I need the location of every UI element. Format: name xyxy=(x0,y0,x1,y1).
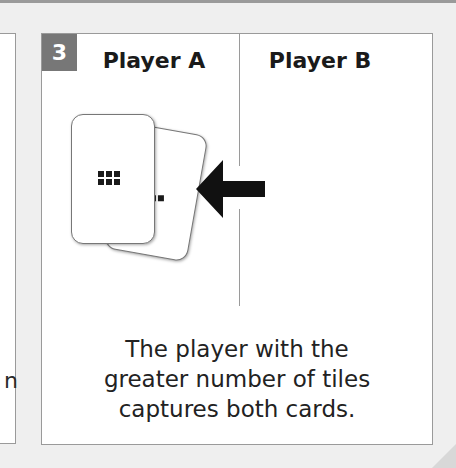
tiles-icon xyxy=(98,171,120,185)
caption-line: greater number of tiles xyxy=(42,364,432,394)
step-panel: 3 Player A Player B The player with the … xyxy=(41,33,433,445)
column-divider xyxy=(239,209,240,306)
page-fold xyxy=(432,444,456,468)
player-a-heading: Player A xyxy=(64,48,244,73)
column-divider xyxy=(239,34,240,166)
caption-line: The player with the xyxy=(42,334,432,364)
arrow-left-icon xyxy=(196,160,268,218)
previous-step-text-fragment: n xyxy=(4,368,18,393)
card-icon xyxy=(71,114,155,244)
rule-caption: The player with the greater number of ti… xyxy=(42,334,432,424)
caption-line: captures both cards. xyxy=(42,394,432,424)
player-b-heading: Player B xyxy=(230,48,410,73)
top-strip xyxy=(0,0,456,3)
